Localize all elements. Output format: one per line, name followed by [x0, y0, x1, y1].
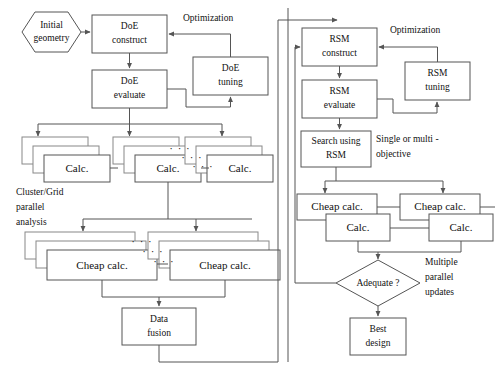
cluster-grid-line-2: parallel — [16, 202, 45, 212]
node-doe-construct: DoE construct — [92, 15, 167, 53]
cluster-grid-line-1: Cluster/Grid — [16, 187, 64, 197]
single-multi-line-1: Single or multi - — [376, 134, 439, 144]
cheap-calc-right-2-label: Cheap calc. — [414, 200, 466, 212]
cheap-calc-right-1-label: Cheap calc. — [311, 200, 363, 212]
label-optimization-right: Optimization — [390, 25, 440, 35]
multiple-parallel-line-3: updates — [425, 287, 454, 297]
node-adequate-decision: Adequate ? — [336, 260, 420, 306]
node-rsm-construct: RSM construct — [302, 28, 377, 66]
node-rsm-evaluate: RSM evaluate — [302, 80, 377, 118]
search-using-rsm-label-1: Search using — [312, 136, 361, 146]
node-calc-right-2: Calc. — [429, 214, 493, 241]
rsm-evaluate-label-2: evaluate — [324, 100, 356, 110]
single-multi-line-2: objective — [376, 149, 411, 159]
rsm-construct-label-2: construct — [322, 48, 357, 58]
label-optimization-left: Optimization — [183, 13, 233, 23]
rsm-evaluate-label-1: RSM — [329, 86, 350, 96]
node-calc-right-1: Calc. — [326, 214, 390, 241]
edge-rsm-evaluate-to-tuning — [377, 99, 437, 113]
multiple-parallel-line-2: parallel — [425, 272, 454, 282]
initial-geometry-label-2: geometry — [34, 33, 70, 43]
data-fusion-label-1: Data — [150, 314, 169, 324]
calc-2-label: Calc. — [157, 162, 180, 174]
ellipsis-calc-bottom: · · · — [192, 160, 214, 172]
node-search-using-rsm: Search using RSM — [301, 131, 371, 167]
node-doe-evaluate: DoE evaluate — [92, 70, 167, 108]
best-design-label-1: Best — [370, 324, 387, 334]
data-fusion-label-2: fusion — [147, 328, 171, 338]
node-data-fusion: Data fusion — [122, 308, 196, 345]
label-single-or-multi-objective: Single or multi - objective — [376, 134, 439, 159]
label-cluster-grid-parallel-analysis: Cluster/Grid parallel analysis — [16, 187, 64, 227]
node-calc-1: Calc. — [22, 137, 110, 182]
rsm-construct-label-1: RSM — [329, 34, 350, 44]
calc-right-1-label: Calc. — [347, 221, 370, 233]
calc-1-label: Calc. — [66, 162, 89, 174]
node-best-design: Best design — [350, 318, 406, 355]
doe-tuning-label-2: tuning — [218, 77, 243, 87]
adequate-label: Adequate ? — [357, 278, 400, 288]
doe-evaluate-label-1: DoE — [121, 76, 139, 86]
flowchart-canvas: Initial geometry DoE construct DoE evalu… — [0, 0, 495, 370]
edge-rsm-tuning-to-construct — [379, 47, 438, 62]
node-initial-geometry: Initial geometry — [22, 12, 81, 52]
cluster-grid-line-3: analysis — [16, 217, 47, 227]
search-using-rsm-label-2: RSM — [326, 150, 347, 160]
doe-construct-label-1: DoE — [121, 21, 139, 31]
doe-evaluate-label-2: evaluate — [114, 90, 146, 100]
label-multiple-parallel-updates: Multiple parallel updates — [425, 257, 458, 297]
initial-geometry-label-1: Initial — [40, 20, 63, 30]
node-doe-tuning: DoE tuning — [193, 57, 268, 95]
cheap-calc-left-1-label: Cheap calc. — [76, 259, 128, 271]
rsm-tuning-label-2: tuning — [425, 82, 450, 92]
node-rsm-tuning: RSM tuning — [405, 62, 470, 100]
calc-right-2-label: Calc. — [450, 221, 473, 233]
calc-3-label: Calc. — [229, 162, 252, 174]
cheap-calc-left-2-label: Cheap calc. — [199, 259, 251, 271]
doe-tuning-label-1: DoE — [222, 63, 240, 73]
multiple-parallel-line-1: Multiple — [425, 257, 458, 267]
doe-construct-label-2: construct — [112, 35, 147, 45]
best-design-label-2: design — [366, 338, 391, 348]
ellipsis-cheapcalc-bottom: · · · — [153, 255, 175, 267]
rsm-tuning-label-1: RSM — [427, 68, 448, 78]
edge-doe-tuning-to-construct — [169, 34, 231, 57]
